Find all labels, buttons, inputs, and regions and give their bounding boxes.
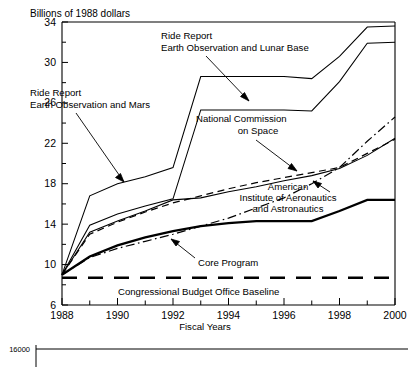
annotation-aiaa-arrowhead bbox=[313, 181, 322, 188]
series-line-3: American Institute of Aeronautics and As… bbox=[62, 139, 395, 274]
annotation-aiaa-line2: Institute of Aeronautics bbox=[239, 192, 336, 203]
annotation-ncos-line2: on Space bbox=[238, 125, 279, 136]
annotation-aiaa: American Institute of Aeronautics and As… bbox=[239, 181, 336, 214]
x-axis-ticks bbox=[62, 298, 395, 305]
x-tick-label: 1998 bbox=[328, 309, 352, 321]
x-tick-label: 1994 bbox=[217, 309, 241, 321]
annotation-ride-mars-line1: Ride Report bbox=[30, 87, 82, 98]
annotation-ride-lunar-line1: Ride Report bbox=[161, 30, 213, 41]
x-tick-label: 1996 bbox=[272, 309, 296, 321]
data-series-group: Ride Report Earth Observation and Lunar … bbox=[62, 26, 395, 278]
annotation-ncos-arrowhead bbox=[288, 164, 297, 172]
y-tick-label: 14 bbox=[44, 218, 56, 230]
annotation-ride-mars-arrowhead bbox=[116, 174, 125, 183]
y-tick-label: 18 bbox=[44, 177, 56, 189]
next-chart-partial: 16000 bbox=[9, 345, 408, 367]
annotation-aiaa-line3: and Astronautics bbox=[253, 203, 324, 214]
y-axis-tick-labels: 610141822263034 bbox=[44, 16, 56, 311]
annotation-core-program-label: Core Program bbox=[198, 257, 258, 268]
annotation-ncos-line1: National Commission bbox=[196, 113, 287, 124]
spending-projections-line-chart: Billions of 1988 dollars 610141822263034… bbox=[0, 0, 411, 367]
x-tick-label: 1990 bbox=[106, 309, 130, 321]
annotation-ride-mars: Ride Report Earth Observation and Mars bbox=[30, 87, 150, 182]
series-line-2: National Commission on Space bbox=[62, 138, 395, 274]
x-tick-label: 1992 bbox=[161, 309, 185, 321]
x-axis-tick-labels: 1988199019921994199619982000 bbox=[50, 309, 407, 321]
annotation-ride-mars-leader bbox=[76, 113, 124, 182]
annotation-aiaa-line1: American bbox=[268, 181, 309, 192]
chart-page: Billions of 1988 dollars 610141822263034… bbox=[0, 0, 411, 367]
annotation-ride-mars-line2: Earth Observation and Mars bbox=[30, 99, 150, 110]
y-axis-minor-ticks bbox=[62, 42, 66, 285]
annotation-ride-lunar-line2: Earth Observation and Lunar Base bbox=[161, 42, 309, 53]
x-tick-label: 1988 bbox=[50, 309, 74, 321]
x-axis-title: Fiscal Years bbox=[179, 321, 231, 332]
x-tick-label: 2000 bbox=[383, 309, 407, 321]
y-tick-label: 30 bbox=[44, 56, 56, 68]
y-tick-label: 34 bbox=[44, 16, 56, 28]
y-tick-label: 10 bbox=[44, 258, 56, 270]
series-line-0: Ride Report Earth Observation and Lunar … bbox=[62, 26, 395, 275]
next-chart-ytick-label: 16000 bbox=[9, 345, 30, 354]
annotation-ride-lunar: Ride Report Earth Observation and Lunar … bbox=[161, 30, 309, 101]
annotation-cbo-baseline-label: Congressional Budget Office Baseline bbox=[118, 286, 279, 297]
y-tick-label: 22 bbox=[44, 137, 56, 149]
series-line-4: American Institute of Aeronautics and As… bbox=[62, 117, 395, 275]
annotation-national-commission: National Commission on Space bbox=[196, 113, 297, 171]
annotation-core-program: Core Program bbox=[171, 239, 258, 268]
axes: 610141822263034 198819901992199419961998… bbox=[44, 16, 407, 321]
